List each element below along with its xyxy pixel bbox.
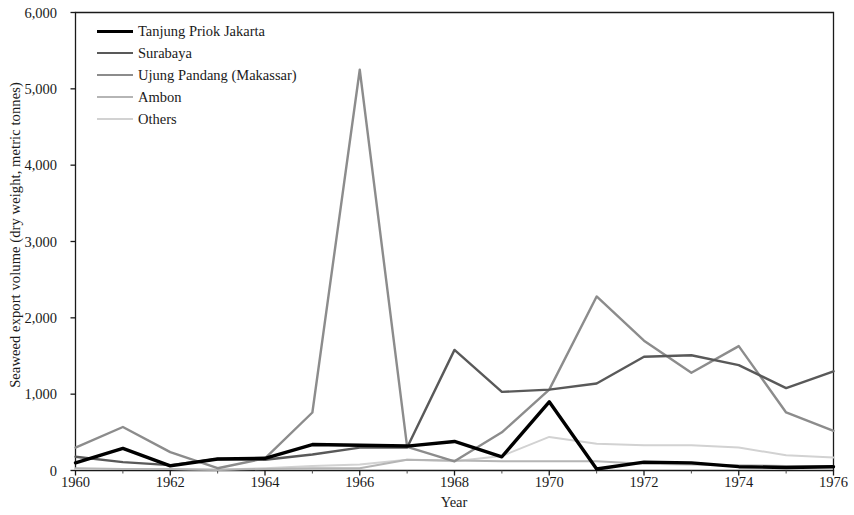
legend-item: Others: [97, 108, 427, 130]
legend-item: Tanjung Priok Jakarta: [97, 20, 427, 42]
x-axis-tick-label: 1972: [630, 474, 659, 491]
y-axis-tick-label: 3,000: [0, 233, 66, 250]
x-axis-tick-label: 1970: [535, 474, 564, 491]
legend-swatch-icon: [97, 74, 133, 76]
legend-item: Ambon: [97, 86, 427, 108]
chart-figure: Seaweed export volume (dry weight, metri…: [0, 0, 854, 515]
series-line: [76, 350, 834, 465]
legend-swatch-icon: [97, 96, 133, 98]
y-axis-tick-label: 6,000: [0, 4, 66, 21]
y-axis-tick-label: 5,000: [0, 80, 66, 97]
legend-item: Ujung Pandang (Makassar): [97, 64, 427, 86]
x-axis-tick-label: 1968: [440, 474, 469, 491]
x-axis-tick-label: 1964: [251, 474, 280, 491]
x-axis-tick-label: 1966: [345, 474, 374, 491]
legend-item-label: Ambon: [138, 86, 182, 108]
x-axis-tick-label: 1976: [819, 474, 848, 491]
chart-legend: Tanjung Priok JakartaSurabayaUjung Panda…: [97, 20, 427, 130]
x-axis-title: Year: [75, 494, 833, 511]
legend-swatch-icon: [97, 52, 133, 54]
legend-item-label: Tanjung Priok Jakarta: [138, 20, 265, 42]
legend-swatch-icon: [97, 30, 133, 33]
y-axis-tick-label: 0: [0, 462, 66, 479]
x-axis-tick-label: 1962: [156, 474, 185, 491]
legend-item-label: Ujung Pandang (Makassar): [138, 64, 297, 86]
legend-item-label: Others: [138, 108, 177, 130]
legend-item: Surabaya: [97, 42, 427, 64]
y-axis-tick-labels: 01,0002,0003,0004,0005,0006,000: [0, 0, 66, 515]
x-axis-tick-label: 1974: [724, 474, 753, 491]
legend-swatch-icon: [97, 118, 133, 120]
y-axis-tick-label: 4,000: [0, 157, 66, 174]
x-axis-tick-label: 1960: [61, 474, 90, 491]
legend-item-label: Surabaya: [138, 42, 192, 64]
y-axis-tick-label: 1,000: [0, 386, 66, 403]
y-axis-tick-label: 2,000: [0, 309, 66, 326]
